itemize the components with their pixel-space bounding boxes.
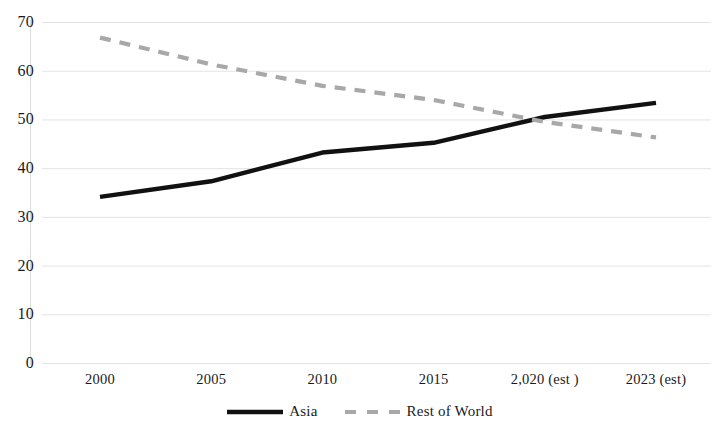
y-axis-tick-label: 0	[0, 355, 34, 371]
solid-line-swatch-icon	[226, 406, 284, 418]
data-series-group	[100, 38, 656, 197]
y-axis-tick-label: 40	[0, 160, 34, 176]
y-axis-tick-label: 30	[0, 209, 34, 225]
y-axis-tick-label: 20	[0, 258, 34, 274]
series-line-asia	[100, 103, 656, 197]
x-axis-tick-label: 2023 (est)	[586, 372, 719, 387]
legend-item-asia[interactable]: Asia	[226, 404, 317, 419]
legend-label: Asia	[289, 404, 317, 419]
y-axis-tick-label: 10	[0, 306, 34, 322]
chart-legend: AsiaRest of World	[0, 404, 719, 419]
dashed-line-swatch-icon	[344, 406, 402, 418]
line-chart: 010203040506070 20002005201020152,020 (e…	[0, 0, 719, 434]
y-axis-tick-label: 50	[0, 111, 34, 127]
series-line-rest-of-world	[100, 38, 656, 138]
y-axis-tick-label: 70	[0, 14, 34, 30]
y-axis-tick-label: 60	[0, 63, 34, 79]
legend-item-rest-of-world[interactable]: Rest of World	[344, 404, 493, 419]
chart-plot-area	[0, 0, 719, 434]
legend-label: Rest of World	[407, 404, 493, 419]
